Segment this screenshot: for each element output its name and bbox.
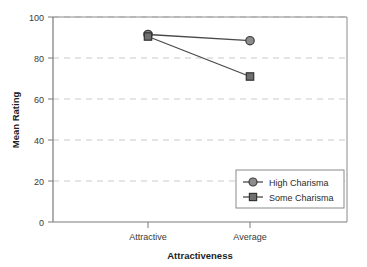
- y-tick-label-0: 0: [39, 218, 44, 228]
- y-axis-title: Mean Rating: [10, 92, 21, 149]
- legend-label-high-charisma: High Charisma: [269, 178, 329, 188]
- chart-canvas: 100 80 60 40 20 0 Mean Rating Attractive…: [0, 0, 367, 267]
- y-tick-label-60: 60: [34, 95, 44, 105]
- legend-label-some-charisma: Some Charisma: [269, 193, 334, 203]
- x-tick-label-attractive: Attractive: [129, 232, 167, 242]
- y-tick-label-20: 20: [34, 177, 44, 187]
- x-axis-title: Attractiveness: [167, 250, 232, 261]
- x-tick-label-average: Average: [233, 232, 266, 242]
- legend[interactable]: High Charisma Some Charisma: [236, 170, 344, 208]
- legend-item-some-charisma[interactable]: Some Charisma: [243, 193, 334, 203]
- circle-marker-icon[interactable]: [246, 37, 254, 45]
- square-marker-icon: [249, 193, 256, 200]
- figure-background: [0, 0, 367, 267]
- circle-marker-icon: [249, 178, 257, 186]
- square-marker-icon[interactable]: [144, 33, 151, 40]
- y-tick-label-100: 100: [29, 13, 44, 23]
- line-chart-figure: 100 80 60 40 20 0 Mean Rating Attractive…: [0, 0, 367, 267]
- y-tick-label-80: 80: [34, 54, 44, 64]
- y-tick-label-40: 40: [34, 136, 44, 146]
- square-marker-icon[interactable]: [246, 73, 253, 80]
